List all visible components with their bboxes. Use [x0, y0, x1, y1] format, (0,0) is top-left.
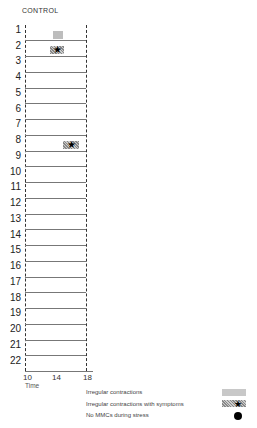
row-label: 19 [0, 307, 21, 318]
row-divider [25, 198, 86, 199]
black-dot-icon [234, 412, 242, 420]
row-label: 2 [0, 40, 21, 51]
legend-swatch-irregular [222, 389, 246, 396]
plot-area: ★ ★ [25, 25, 86, 371]
row-divider [25, 182, 86, 183]
row-label: 9 [0, 150, 21, 161]
legend-swatch-symptoms: ★ [222, 400, 246, 407]
row-divider [25, 119, 86, 120]
row-divider [25, 355, 86, 356]
row-label: 7 [0, 118, 21, 129]
row-label: 18 [0, 292, 21, 303]
star-icon: ★ [53, 45, 62, 55]
row-divider [25, 214, 86, 215]
x-axis [25, 371, 93, 372]
row-label: 6 [0, 103, 21, 114]
x-tick-14: 14 [52, 373, 61, 382]
row-label: 11 [0, 181, 21, 192]
row-label: 16 [0, 260, 21, 271]
x-tick-10: 10 [23, 373, 32, 382]
row-label: 12 [0, 197, 21, 208]
row-label: 15 [0, 244, 21, 255]
row-divider [25, 56, 86, 57]
row-label: 1 [0, 24, 21, 35]
row-divider [25, 166, 86, 167]
x-tick-18: 18 [83, 373, 92, 382]
row-divider [25, 340, 86, 341]
row-divider [25, 135, 86, 136]
legend-label-symptoms: Irregular contractions with symptoms [86, 401, 184, 407]
symptomatic-contraction-block-row-2: ★ [50, 46, 64, 54]
symptomatic-contraction-block-row-8: ★ [63, 141, 79, 149]
irregular-contraction-block-row-1 [53, 31, 63, 39]
row-divider [25, 277, 86, 278]
chart-title: CONTROL [22, 7, 58, 14]
row-label: 14 [0, 229, 21, 240]
row-divider [25, 151, 86, 152]
row-label: 22 [0, 355, 21, 366]
row-divider [25, 261, 86, 262]
row-divider [25, 72, 86, 73]
row-divider [25, 40, 86, 41]
row-divider [25, 308, 86, 309]
row-label: 17 [0, 276, 21, 287]
row-divider [25, 324, 86, 325]
star-icon: ★ [234, 398, 242, 408]
row-divider [25, 245, 86, 246]
row-label: 4 [0, 71, 21, 82]
star-icon: ★ [67, 140, 76, 150]
row-label: 8 [0, 134, 21, 145]
row-divider [25, 88, 86, 89]
row-label: 5 [0, 87, 21, 98]
row-divider [25, 103, 86, 104]
row-label: 10 [0, 166, 21, 177]
row-divider [25, 292, 86, 293]
legend-label-irregular: Irregular contractions [86, 389, 142, 395]
x-axis-label: Time [25, 382, 39, 389]
row-label: 20 [0, 323, 21, 334]
row-label: 13 [0, 213, 21, 224]
row-divider [25, 229, 86, 230]
legend-label-no-mmc: No MMCs during stress [86, 412, 149, 418]
row-label: 3 [0, 55, 21, 66]
right-dashed-boundary [86, 25, 87, 371]
row-label: 21 [0, 339, 21, 350]
